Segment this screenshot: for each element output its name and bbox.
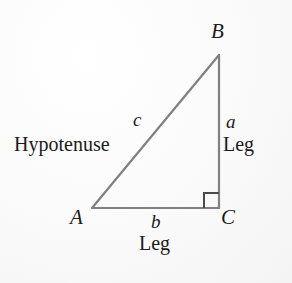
hypotenuse-line: [92, 55, 219, 208]
vertex-label-c: C: [221, 207, 235, 228]
right-triangle-figure: B A C c a b Hypotenuse Leg Leg: [0, 0, 292, 283]
vertex-label-b: B: [211, 21, 224, 42]
right-angle-marker-icon: [204, 193, 219, 208]
side-label-b: b: [151, 212, 161, 231]
leg-text-label-right: Leg: [223, 134, 254, 154]
side-label-a: a: [226, 112, 236, 131]
side-label-c: c: [133, 110, 141, 129]
leg-text-label-bottom: Leg: [139, 233, 170, 253]
hypotenuse-text-label: Hypotenuse: [14, 134, 110, 154]
vertex-label-a: A: [70, 207, 83, 228]
